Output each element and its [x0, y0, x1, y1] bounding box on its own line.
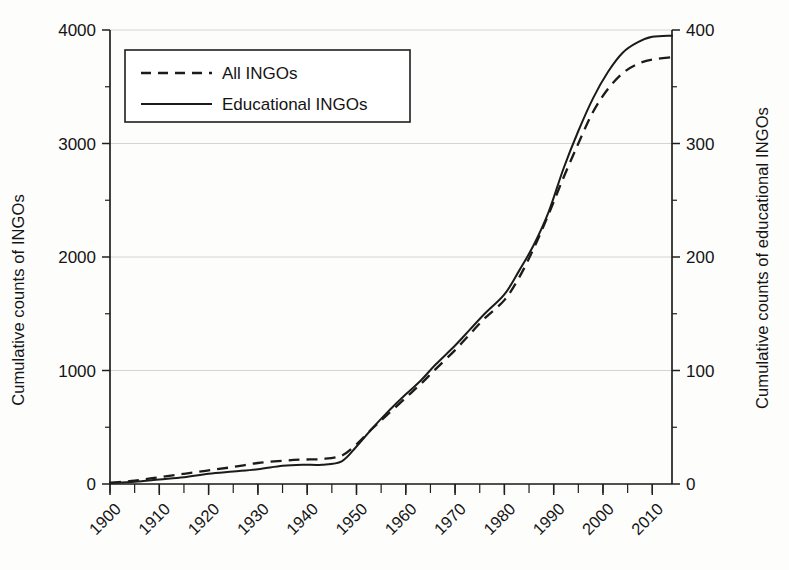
- y2-tick-label: 300: [686, 135, 714, 154]
- x-tick-label: 1920: [184, 499, 223, 538]
- y-tick-label: 1000: [58, 362, 96, 381]
- y2-tick-label: 0: [686, 475, 695, 494]
- y2-tick-label: 200: [686, 248, 714, 267]
- y-tick-label: 4000: [58, 21, 96, 40]
- y-tick-label: 3000: [58, 135, 96, 154]
- y2-tick-label: 400: [686, 21, 714, 40]
- y-tick-label: 2000: [58, 248, 96, 267]
- x-tick-label: 1910: [135, 499, 174, 538]
- x-tick-label: 1970: [431, 499, 470, 538]
- y-axis-title: Cumulative counts of INGOs: [9, 194, 27, 406]
- x-tick-label: 2010: [628, 499, 667, 538]
- y2-tick-label: 100: [686, 362, 714, 381]
- x-tick-label: 1990: [529, 499, 568, 538]
- x-tick-label: 1900: [85, 499, 124, 538]
- x-tick-label: 1980: [480, 499, 519, 538]
- legend-label-educational-ingos: Educational INGOs: [222, 95, 368, 114]
- chart-svg: 01000200030004000 0100200300400 19001910…: [0, 0, 789, 570]
- legend-label-all-ingos: All INGOs: [222, 64, 298, 83]
- y2-axis-ticks: 0100200300400: [672, 21, 714, 494]
- x-tick-label: 1960: [381, 499, 420, 538]
- y-axis-ticks: 01000200030004000: [58, 21, 110, 494]
- x-tick-label: 2000: [578, 499, 617, 538]
- x-tick-label: 1950: [332, 499, 371, 538]
- y2-axis-title: Cumulative counts of educational INGOs: [753, 107, 771, 409]
- chart-legend: All INGOs Educational INGOs: [125, 50, 410, 122]
- x-tick-label: 1930: [233, 499, 272, 538]
- x-axis-ticks: 1900191019201930194019501960197019801990…: [85, 484, 666, 538]
- x-tick-label: 1940: [283, 499, 322, 538]
- chart-figure: 01000200030004000 0100200300400 19001910…: [0, 0, 789, 570]
- y-tick-label: 0: [87, 475, 96, 494]
